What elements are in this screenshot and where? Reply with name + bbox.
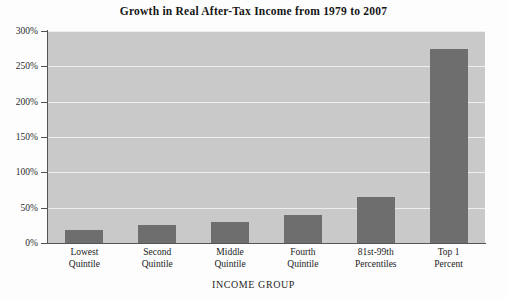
y-axis-tick-mark: [41, 31, 47, 32]
category-label-line-1: Middle: [216, 247, 243, 257]
category-label-line-2: Percent: [412, 259, 485, 271]
x-axis-category-label: LowestQuintile: [48, 247, 121, 270]
y-axis-tick-mark: [41, 172, 47, 173]
bar: [284, 215, 322, 243]
category-label-line-2: Quintile: [121, 259, 194, 271]
chart-title: Growth in Real After-Tax Income from 197…: [0, 5, 507, 17]
y-axis-tick-mark: [41, 243, 47, 244]
y-axis-line: [47, 30, 48, 244]
bar: [211, 222, 249, 243]
x-axis-category-label: Top 1Percent: [412, 247, 485, 270]
y-axis-tick-label: 50%: [21, 203, 38, 213]
bar: [138, 225, 176, 243]
y-axis-tick-label: 100%: [16, 167, 38, 177]
x-axis-category-label: 81st-99thPercentiles: [339, 247, 412, 270]
category-label-line-2: Quintile: [48, 259, 121, 271]
category-label-line-1: Top 1: [438, 247, 460, 257]
x-axis-line: [47, 243, 486, 244]
y-axis-tick-label: 150%: [16, 132, 38, 142]
y-axis-tick-label: 300%: [16, 26, 38, 36]
category-label-line-2: Percentiles: [339, 259, 412, 271]
x-axis-category-label: SecondQuintile: [121, 247, 194, 270]
y-axis-tick-label: 250%: [16, 61, 38, 71]
bar: [65, 230, 103, 243]
category-label-line-1: 81st-99th: [358, 247, 394, 257]
bar: [357, 197, 395, 243]
x-axis-category-label: MiddleQuintile: [194, 247, 267, 270]
category-label-line-1: Fourth: [290, 247, 315, 257]
category-label-line-2: Quintile: [267, 259, 340, 271]
x-axis-category-labels: LowestQuintileSecondQuintileMiddleQuinti…: [48, 247, 485, 277]
category-label-line-1: Second: [143, 247, 171, 257]
y-axis-tick-mark: [41, 102, 47, 103]
chart-container: Growth in Real After-Tax Income from 197…: [0, 0, 507, 299]
plot-area: [48, 31, 485, 243]
bars-layer: [48, 31, 485, 243]
y-axis-tick-label: 200%: [16, 97, 38, 107]
x-axis-title: INCOME GROUP: [0, 279, 507, 290]
bar: [430, 49, 468, 243]
y-axis-tick-mark: [41, 137, 47, 138]
x-axis-category-label: FourthQuintile: [267, 247, 340, 270]
category-label-line-2: Quintile: [194, 259, 267, 271]
category-label-line-1: Lowest: [70, 247, 98, 257]
y-axis-tick-mark: [41, 208, 47, 209]
y-axis-tick-mark: [41, 66, 47, 67]
y-axis-tick-label: 0%: [25, 238, 38, 248]
